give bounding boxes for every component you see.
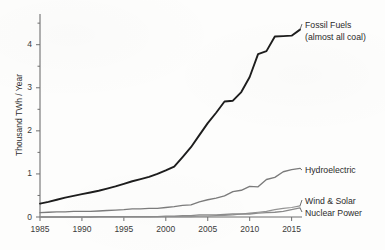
- y-tick-label: 4: [16, 39, 32, 49]
- series-label-wind-solar: Wind & Solar: [305, 196, 356, 208]
- leader-line-wind-solar: [300, 200, 302, 206]
- x-tick-label: 1985: [23, 224, 57, 234]
- axes-group: [36, 14, 302, 221]
- series-line-hydroelectric: [40, 168, 300, 212]
- leader-line-nuclear-power: [300, 208, 302, 212]
- series-label-hydroelectric: Hydroelectric: [305, 165, 356, 177]
- leader-line-fossil-fuels: [300, 24, 302, 30]
- x-tick-label: 2005: [191, 224, 225, 234]
- x-tick-label: 2015: [275, 224, 309, 234]
- x-tick-label: 1995: [107, 224, 141, 234]
- series-label-fossil-fuels-line2: (almost all coal): [305, 32, 366, 44]
- series-label-fossil-fuels: Fossil Fuels (almost all coal): [305, 20, 366, 43]
- x-tick-label: 1990: [65, 224, 99, 234]
- series-label-fossil-fuels-line1: Fossil Fuels: [305, 20, 366, 32]
- series-line-nuclear-power: [40, 208, 300, 217]
- chart-container: 01234 1985199019952000200520102015 Thous…: [0, 0, 385, 250]
- series-group: [40, 30, 300, 217]
- series-line-fossil-fuels: [40, 30, 300, 204]
- series-label-nuclear-power: Nuclear Power: [305, 208, 362, 220]
- leader-lines-group: [300, 24, 302, 212]
- y-axis-title: Thousand TWh / Year: [14, 55, 24, 175]
- x-tick-label: 2010: [233, 224, 267, 234]
- y-tick-label: 0: [16, 212, 32, 222]
- x-tick-label: 2000: [149, 224, 183, 234]
- leader-line-hydroelectric: [300, 168, 302, 170]
